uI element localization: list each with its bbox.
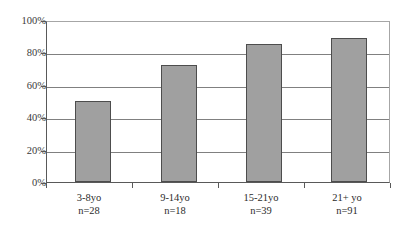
bar-3-8yo bbox=[75, 101, 111, 182]
x-tick-mark-3 bbox=[304, 183, 305, 188]
x-tick-mark-4 bbox=[390, 183, 391, 188]
y-axis: 100% 80% 60% 40% 20% 0% bbox=[0, 0, 46, 230]
x-label-category-3: 21+ yo bbox=[332, 192, 362, 203]
x-label-category-2: 15-21yo bbox=[244, 192, 279, 203]
y-tick-label-60: 60% bbox=[6, 81, 46, 92]
x-label-3-8yo: 3-8yo n=28 bbox=[44, 191, 134, 218]
x-label-15-21yo: 15-21yo n=39 bbox=[216, 191, 306, 218]
x-label-category-1: 9-14yo bbox=[160, 192, 190, 203]
x-label-n-0: n=28 bbox=[44, 204, 134, 217]
x-label-n-2: n=39 bbox=[216, 204, 306, 217]
plot-area bbox=[46, 21, 390, 183]
bar-9-14yo bbox=[161, 65, 197, 182]
x-label-n-1: n=18 bbox=[130, 204, 220, 217]
y-tick-label-40: 40% bbox=[6, 113, 46, 124]
x-label-21plus: 21+ yo n=91 bbox=[302, 191, 392, 218]
bars-layer bbox=[47, 22, 389, 182]
x-tick-mark-2 bbox=[218, 183, 219, 188]
x-label-n-3: n=91 bbox=[302, 204, 392, 217]
x-tick-mark-0 bbox=[46, 183, 47, 188]
bar-15-21yo bbox=[246, 44, 282, 182]
x-label-9-14yo: 9-14yo n=18 bbox=[130, 191, 220, 218]
y-tick-label-80: 80% bbox=[6, 48, 46, 59]
bar-chart: 100% 80% 60% 40% 20% 0% bbox=[0, 0, 407, 230]
y-tick-label-20: 20% bbox=[6, 145, 46, 156]
y-tick-label-0: 0% bbox=[6, 178, 46, 189]
x-label-category-0: 3-8yo bbox=[77, 192, 102, 203]
bar-21plus bbox=[331, 38, 367, 182]
y-tick-label-100: 100% bbox=[6, 16, 46, 27]
x-tick-mark-1 bbox=[132, 183, 133, 188]
